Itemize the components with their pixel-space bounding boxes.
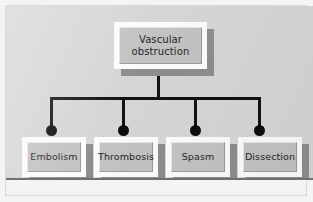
node-label: Embolism (28, 151, 79, 162)
node-face: Embolism (27, 142, 81, 172)
node-thrombosis[interactable]: Thrombosis (94, 137, 165, 180)
node-label-line-2: obstruction (132, 46, 190, 57)
node-face: Thrombosis (99, 142, 153, 172)
node-face: Dissection (243, 142, 297, 172)
node-label-line-1: Vascular (139, 34, 182, 45)
node-dissection[interactable]: Dissection (238, 137, 309, 180)
node-label: Spasm (180, 151, 217, 162)
diagram-screenshot: Vascular obstruction Embolism Thrombosis (0, 0, 313, 202)
node-embolism[interactable]: Embolism (22, 137, 93, 180)
node-plate: Vascular obstruction (114, 22, 207, 69)
connector-dot-thrombosis (118, 125, 129, 136)
node-face: Spasm (171, 142, 225, 172)
diagram-canvas: Vascular obstruction Embolism Thrombosis (6, 6, 313, 180)
node-face: Vascular obstruction (119, 27, 202, 64)
node-spasm[interactable]: Spasm (166, 137, 237, 180)
connector-horizontal-bus (50, 97, 261, 100)
node-plate: Dissection (238, 137, 302, 177)
node-vascular-obstruction[interactable]: Vascular obstruction (114, 22, 214, 76)
node-label: Dissection (243, 151, 297, 162)
node-label: Thrombosis (96, 151, 156, 162)
connector-dot-embolism (46, 125, 57, 136)
node-plate: Thrombosis (94, 137, 158, 177)
node-label: Vascular obstruction (130, 34, 192, 58)
node-plate: Spasm (166, 137, 230, 177)
connector-dot-spasm (190, 125, 201, 136)
node-plate: Embolism (22, 137, 86, 177)
connector-dot-dissection (254, 125, 265, 136)
